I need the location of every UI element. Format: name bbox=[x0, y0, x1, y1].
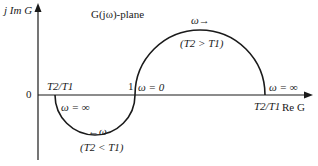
upper-curve-end-label: ω = ∞ bbox=[269, 82, 298, 93]
left-point-label: T2/T1 bbox=[47, 81, 73, 92]
real-axis-arrow-icon bbox=[304, 92, 313, 99]
upper-curve-condition-label: (T2 > T1) bbox=[180, 38, 223, 49]
lower-curve-direction-label: ←ω bbox=[88, 126, 107, 137]
polar-plot-diagram: j Im G Re G 0 G(jω)-plane 1 T2/T1 T2/T1 … bbox=[0, 0, 318, 166]
real-axis-label-text: Re G bbox=[282, 101, 305, 113]
lower-curve-condition-label: (T2 < T1) bbox=[80, 142, 123, 153]
upper-curve-direction-label: ω→ bbox=[191, 15, 210, 26]
origin-label: 0 bbox=[26, 89, 32, 100]
imaginary-axis-arrow-icon bbox=[35, 3, 42, 12]
real-axis-label: Re G bbox=[282, 102, 305, 113]
plane-title: G(jω)-plane bbox=[91, 9, 144, 20]
imaginary-axis-label: j Im G bbox=[4, 5, 32, 16]
upper-curve-start-label: ω = 0 bbox=[138, 82, 164, 93]
right-point-label: T2/T1 bbox=[254, 101, 280, 112]
lower-curve-start-label: ω = ∞ bbox=[61, 102, 90, 113]
point-one-label: 1 bbox=[128, 81, 134, 92]
